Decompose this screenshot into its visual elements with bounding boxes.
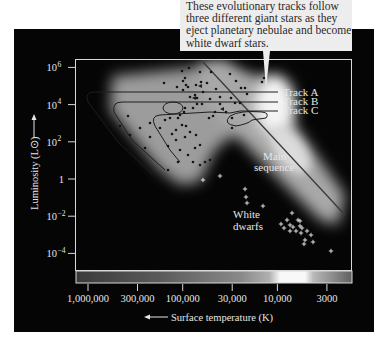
giant-star-dot [187,154,190,157]
giant-star-dot [196,103,199,106]
giant-star-dot [179,114,182,117]
giant-star-dot [219,96,222,99]
giant-star-dot [119,125,122,128]
giant-star-dot [183,111,186,114]
white-dwarf-marker [261,204,265,208]
hr-diagram: Track A Track B Track C Main sequence Wh… [0,0,378,347]
giant-star-dot [188,67,191,70]
giant-star-dot [244,87,247,90]
giant-star-dot [215,88,218,91]
giant-star-dot [171,133,174,136]
giant-star-dot [144,147,147,150]
callout-line-3: eject planetary nebulae and become [186,25,346,37]
x-tick-label: 30,000 [218,293,247,304]
giant-star-dot [163,82,166,85]
giant-star-dot [210,71,213,74]
y-tick-label: 10 [47,248,58,259]
y-tick-exponent: 4 [58,97,62,106]
white-dwarf-marker [291,225,295,229]
white-dwarf-marker [243,187,247,191]
giant-star-dot [234,102,237,105]
giant-star-dot [204,161,207,164]
giant-star-dot [179,149,182,152]
y-tick-label: 1 [59,174,64,185]
white-dwarf-marker [285,218,289,222]
giant-star-dot [261,81,264,84]
giant-star-dot [212,115,215,118]
white-dwarf-marker [329,249,333,253]
giant-star-dot [209,159,212,162]
giant-star-dot [139,127,142,130]
y-tick-label: 10 [47,211,58,222]
giant-star-dot [175,129,178,132]
white-dwarf-marker [298,224,302,228]
x-tick-label: 10,000 [263,293,292,304]
giant-star-dot [201,103,204,106]
giant-star-dot [214,111,217,114]
white-dwarf-marker [218,174,222,178]
giant-star-dot [164,119,167,122]
giant-star-dot [149,136,152,139]
giant-star-dot [231,127,234,130]
giant-star-dot [167,169,170,172]
giant-star-dot [192,107,195,110]
giant-star-dot [189,131,192,134]
white-dwarf-marker [288,223,292,227]
temperature-color-bar [76,271,352,283]
giant-star-dot [229,73,232,76]
track-c-label: Track C [283,104,318,116]
y-tick-label: 10 [47,100,58,111]
giant-star-dot [209,98,212,101]
giant-star-dot [176,86,179,89]
giant-star-dot [196,97,199,100]
y-tick-exponent: 6 [58,60,62,69]
white-dwarfs-label-2: dwarfs [233,220,263,232]
y-axis: 106104102110−210−4 [47,60,77,260]
white-dwarf-marker [290,211,294,215]
giant-star-dot [192,161,195,164]
white-dwarfs-label-1: White [233,208,260,220]
white-dwarf-marker [294,229,298,233]
y-axis-arrow [32,114,37,138]
giant-star-dot [149,122,152,125]
white-dwarf-marker [244,195,248,199]
giant-star-dot [199,71,202,74]
giant-star-dot [199,144,202,147]
white-dwarf-marker [303,238,307,242]
giant-star-dot [159,127,162,130]
giant-star-dot [184,77,187,80]
giant-star-dot [194,94,197,97]
giant-star-dot [200,81,203,84]
white-dwarf-marker [245,201,249,205]
y-tick-exponent: 2 [58,134,62,143]
giant-star-dot [177,161,180,164]
x-tick-label: 3000 [316,293,337,304]
white-dwarf-marker [311,240,315,244]
giant-star-dot [181,124,184,127]
giant-star-dot [202,91,205,94]
y-tick-label: 10 [47,62,58,73]
x-tick-label: 300,000 [120,293,154,304]
callout-line-4: white dwarf stars. [186,38,346,50]
giant-star-dot [225,111,228,114]
y-tick-exponent: −4 [58,246,66,255]
y-axis-label: Luminosity (L⊙) [29,136,41,210]
giant-star-dot [235,80,238,83]
white-dwarf-marker [282,226,286,230]
x-tick-label: 1,000,000 [67,293,109,304]
white-dwarf-marker [296,218,300,222]
giant-star-dot [206,82,209,85]
white-dwarf-marker [288,229,292,233]
giant-star-dot [182,80,185,83]
y-tick-label: 10 [47,137,58,148]
y-tick-exponent: −2 [58,209,66,218]
giant-star-dot [195,84,198,87]
white-dwarf-marker [279,222,283,226]
white-dwarf-marker [298,219,302,223]
giant-star-dot [240,87,243,90]
giant-star-dot [230,97,233,100]
giant-star-dot [169,117,172,120]
giant-star-dot [243,114,246,117]
giant-star-dot [175,139,178,142]
white-dwarf-marker [302,242,306,246]
